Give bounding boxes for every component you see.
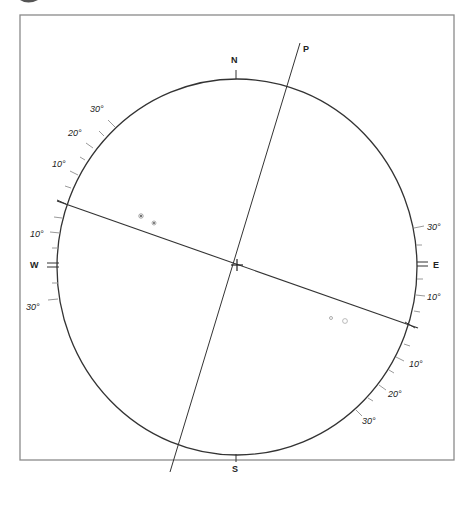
degree-label-e-30: 30° bbox=[427, 222, 441, 232]
degree-label-nw-20: 20° bbox=[67, 128, 82, 138]
degree-label-se-10: 10° bbox=[409, 359, 423, 369]
west-label: W bbox=[30, 260, 39, 270]
se-degree-ticks bbox=[356, 344, 410, 416]
degree-label-nw-30: 30° bbox=[90, 104, 104, 114]
degree-label-e-10: 10° bbox=[427, 292, 441, 302]
stereonet-diagram: N S W E P 30° 20° 10° 10° 30° 30° 10° 10… bbox=[0, 0, 472, 519]
east-label: E bbox=[433, 260, 439, 270]
degree-label-se-20: 20° bbox=[387, 389, 402, 399]
degree-label-w-30: 30° bbox=[26, 302, 40, 312]
pole-label: P bbox=[303, 44, 309, 54]
corner-mark bbox=[20, 0, 38, 3]
north-label: N bbox=[231, 55, 238, 65]
degree-label-w-10: 10° bbox=[30, 229, 44, 239]
pole-line bbox=[170, 43, 300, 472]
center-cross bbox=[231, 259, 243, 271]
degree-label-se-30: 30° bbox=[362, 416, 376, 426]
east-cross-mark bbox=[405, 322, 415, 328]
degree-label-nw-10: 10° bbox=[52, 159, 66, 169]
south-label: S bbox=[232, 464, 238, 474]
